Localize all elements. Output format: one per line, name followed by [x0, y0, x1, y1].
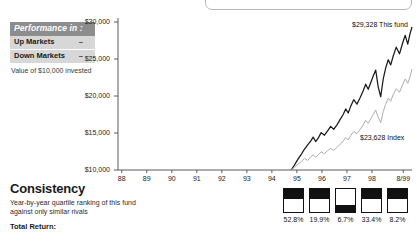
quartile-fill — [336, 205, 355, 212]
quartile-box — [387, 188, 408, 213]
x-axis-tick-label: 91 — [185, 175, 209, 183]
x-axis-tick-label: 98 — [360, 175, 384, 183]
quartile-box — [335, 188, 356, 213]
quartile-percent-label: 8.2% — [383, 216, 413, 224]
x-axis-tick-label: 93 — [235, 175, 259, 183]
quartile-fill — [388, 189, 407, 199]
quartile-box — [361, 188, 382, 213]
x-axis-tick-label: 96 — [310, 175, 334, 183]
annotation-index: $23,628 Index — [360, 134, 404, 142]
x-axis-tick-label: 90 — [160, 175, 184, 183]
y-axis-tick-label: $10,000 — [70, 166, 110, 174]
y-axis-tick-label: $30,000 — [70, 18, 110, 26]
x-axis-tick-label: 92 — [210, 175, 234, 183]
y-axis-tick-label: $20,000 — [70, 92, 110, 100]
annotation-this-fund: $29,328 This fund — [352, 21, 408, 29]
x-axis-tick-label: 97 — [335, 175, 359, 183]
fund-performance-panel: Performance in : Up Markets – Down Marke… — [0, 0, 417, 241]
x-axis-tick-label: 89 — [135, 175, 159, 183]
quartile-fill — [284, 189, 303, 199]
quartile-box — [283, 188, 304, 213]
quartile-fill — [362, 189, 381, 199]
quartile-fill — [310, 189, 329, 199]
quartile-box — [309, 188, 330, 213]
x-axis-tick-label: 95 — [285, 175, 309, 183]
y-axis-tick-label: $25,000 — [70, 55, 110, 63]
x-axis-tick-label: 88 — [110, 175, 134, 183]
y-axis-tick-label: $15,000 — [70, 129, 110, 137]
x-axis-tick-label: 94 — [260, 175, 284, 183]
x-axis-tick-label: 8/99 — [391, 175, 415, 183]
